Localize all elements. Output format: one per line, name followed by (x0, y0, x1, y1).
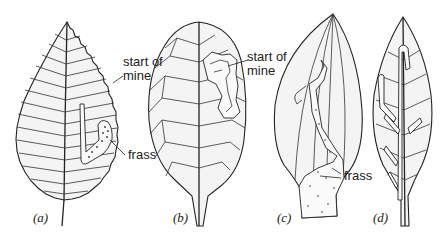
panel-label-b: (b) (173, 210, 188, 225)
label-b-start-of-mine-line2: mine (247, 63, 275, 78)
label-c-frass: frass (344, 168, 373, 183)
leaf-b (149, 22, 248, 226)
label-b-start-of-mine-line1: start of (247, 49, 287, 64)
label-a-start-of-mine-line2: mine (123, 68, 151, 83)
label-a-start-of-mine-line1: start of (123, 54, 163, 69)
label-a-frass: frass (128, 147, 157, 162)
leaf-c (274, 14, 362, 218)
panel-label-d: (d) (373, 210, 388, 225)
leaf-a (16, 22, 125, 226)
leaf-d (373, 17, 432, 226)
leaf-mine-diagram: start of mine frass start of mine frass … (0, 0, 445, 244)
panel-label-c: (c) (277, 210, 291, 225)
panel-label-a: (a) (33, 210, 48, 225)
